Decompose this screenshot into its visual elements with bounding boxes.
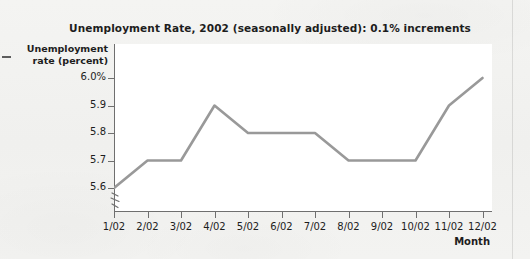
x-tick-mark: [315, 212, 316, 218]
x-axis-title: Month: [454, 236, 490, 247]
chart-title: Unemployment Rate, 2002 (seasonally adju…: [60, 22, 480, 34]
x-tick-mark: [215, 212, 216, 218]
x-axis-line: [114, 211, 492, 212]
y-axis-title-line-2: rate (percent): [0, 55, 108, 67]
y-tick-label: 5.9: [60, 99, 106, 110]
unemployment-rate-line-chart: Unemployment Rate, 2002 (seasonally adju…: [0, 0, 530, 259]
x-tick-mark: [449, 212, 450, 218]
y-axis-title-line-1: Unemployment: [0, 43, 108, 55]
x-tick-mark: [416, 212, 417, 218]
x-tick-mark: [114, 212, 115, 218]
x-tick-label: 12/02: [460, 221, 506, 232]
y-tick-label: 6.0%: [60, 71, 106, 82]
y-tick-label: 5.8: [60, 126, 106, 137]
x-tick-mark: [248, 212, 249, 218]
y-tick-label: 5.6: [60, 181, 106, 192]
x-tick-mark: [382, 212, 383, 218]
data-series-line: [114, 44, 492, 211]
y-tick-label: 5.7: [60, 154, 106, 165]
x-tick-mark: [148, 212, 149, 218]
x-tick-mark: [282, 212, 283, 218]
x-tick-mark: [483, 212, 484, 218]
y-axis-title: Unemployment rate (percent): [0, 43, 108, 67]
x-tick-mark: [181, 212, 182, 218]
unemployment-rate-polyline: [114, 78, 483, 188]
x-tick-mark: [349, 212, 350, 218]
